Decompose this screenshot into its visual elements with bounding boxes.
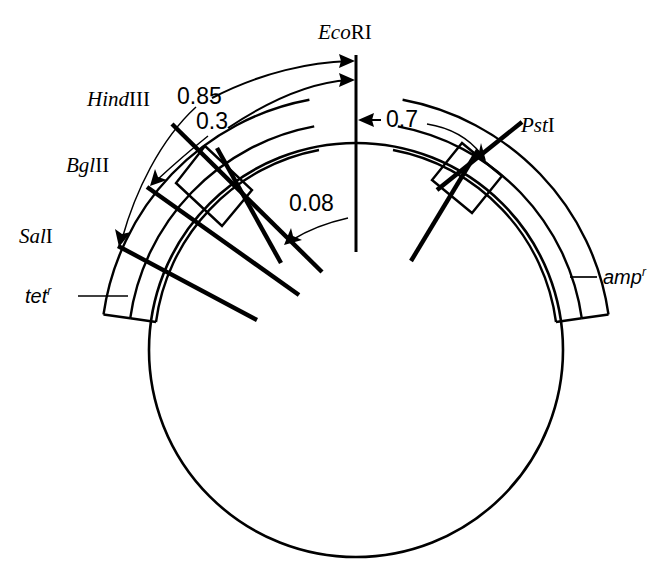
label-hindiii: HindIII [87,89,150,110]
label-ecori-roman: RI [351,20,372,44]
label-psti-roman: I [548,113,555,137]
label-psti-italic: Pst [521,113,548,137]
measure-085-arrowhead-right [339,54,355,68]
measure-008-arc [292,218,348,240]
label-amp-base: amp [603,266,642,288]
measure-03-arrowhead-right [339,73,355,87]
label-bglii: BglII [66,155,109,176]
label-ecori-italic: Eco [318,20,351,44]
label-amp-r: ampr [603,266,646,287]
measure-07-arrowhead-left [358,113,374,127]
label-ecori: EcoRI [318,22,372,43]
label-hindiii-roman: III [129,87,150,111]
measure-085-arc-to-ecori [212,61,349,98]
label-psti: PstI [521,115,555,136]
tet-band-end-cap [104,315,131,319]
amp-band-end-cap [582,315,609,319]
measure-07-arc-to-psti [427,124,481,154]
label-distance-03: 0.3 [196,110,228,133]
label-tet-superscript: r [47,284,51,298]
label-sali-roman: I [46,224,53,248]
plasmid-map-figure: EcoRI HindIII BglII SalI PstI tetr ampr … [0,0,670,584]
label-sali: SalI [19,226,53,247]
label-tet-r: tetr [25,285,51,306]
label-amp-superscript: r [642,265,646,279]
label-bglii-roman: II [95,153,109,177]
label-sali-italic: Sal [19,224,46,248]
label-hindiii-italic: Hind [87,87,129,111]
label-distance-008: 0.08 [289,192,334,215]
amp-band-middle-arc [393,150,556,322]
label-distance-07: 0.7 [386,108,418,131]
right-site-box-outer [432,143,502,213]
label-tet-base: tet [25,285,47,307]
label-bglii-italic: Bgl [66,153,95,177]
label-distance-085: 0.85 [177,85,222,108]
bglii-cut-line [147,187,299,295]
